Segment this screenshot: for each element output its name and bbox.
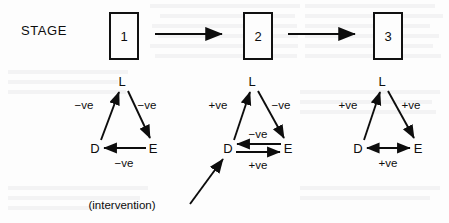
edge-label-stage1-D-L: −ve <box>75 99 94 111</box>
edge-label-stage2-D-E: +ve <box>249 159 268 171</box>
edge-label-stage2-D-L: +ve <box>209 99 228 111</box>
node-stage2-E: E <box>284 141 293 156</box>
stage-box-2: 2 <box>243 12 273 60</box>
node-stage3-L: L <box>378 74 385 89</box>
node-stage2-D: D <box>223 141 232 156</box>
edge-label-stage1-E-D: −ve <box>115 157 134 169</box>
edge-label-stage3-L-E: +ve <box>402 99 421 111</box>
edge-label-stage2-E-D: −ve <box>249 128 268 140</box>
stage-causal-diagram: STAGE 1 2 3 L D E L D E L D E −ve −ve −v… <box>0 0 449 223</box>
stage-label: STAGE <box>21 23 67 38</box>
edge-label-stage2-L-E: −ve <box>272 99 291 111</box>
intervention-arrow <box>190 159 223 204</box>
edge-label-stage3-D-E: +ve <box>379 157 398 169</box>
node-stage1-D: D <box>90 141 99 156</box>
intervention-label: (intervention) <box>88 199 155 211</box>
node-stage3-D: D <box>353 141 362 156</box>
node-stage1-L: L <box>118 74 125 89</box>
node-stage1-E: E <box>149 141 158 156</box>
edge-label-stage3-D-L: +ve <box>339 99 358 111</box>
stage-box-1: 1 <box>109 12 139 60</box>
edge-label-stage1-L-E: −ve <box>138 99 157 111</box>
stage-box-3: 3 <box>373 12 403 60</box>
node-stage3-E: E <box>414 141 423 156</box>
node-stage2-L: L <box>248 74 255 89</box>
